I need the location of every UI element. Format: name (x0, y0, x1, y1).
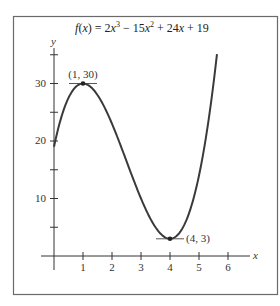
x-tick-label-3: 3 (138, 261, 144, 273)
y-tick-label-10: 10 (35, 192, 47, 204)
x-tick-label-5: 5 (196, 261, 202, 273)
x-tick-label-6: 6 (225, 261, 231, 273)
max-point-label: (1, 30) (68, 68, 98, 81)
y-tick-label-20: 20 (35, 134, 47, 146)
x-axis-label: x (252, 249, 258, 261)
x-tick-label-1: 1 (80, 261, 86, 273)
chart-title: f(x) = 2x3 − 15x2 + 24x + 19 (75, 20, 209, 35)
max-point-marker (81, 81, 86, 86)
min-point-marker (168, 237, 173, 242)
x-tick-label-2: 2 (109, 261, 115, 273)
min-point-label: (4, 3) (186, 232, 210, 245)
y-axis-label: y (50, 35, 56, 47)
plot-frame (14, 17, 278, 295)
x-tick-label-4: 4 (167, 261, 173, 273)
y-tick-label-30: 30 (35, 77, 47, 89)
function-plot: f(x) = 2x3 − 15x2 + 24x + 19 y x 1 2 3 4… (0, 0, 280, 306)
